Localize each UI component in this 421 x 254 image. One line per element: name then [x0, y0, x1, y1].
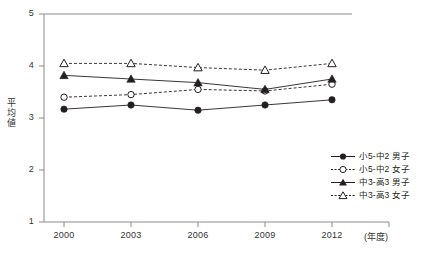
x-tick-label-2012: 2012 — [312, 230, 352, 240]
y-axis-title-char-2: 均 — [5, 108, 17, 118]
legend-label-3: 中3-高3 女子 — [359, 189, 410, 202]
data-point-3-4 — [328, 59, 336, 66]
plot-area — [0, 0, 421, 254]
series-3 — [60, 59, 336, 73]
data-point-0-2 — [195, 107, 201, 113]
series-0 — [61, 97, 335, 114]
y-axis-title-char-3: 値 — [5, 118, 17, 128]
chart-container: 5 4 3 2 1 平 均 値 2000 2003 2006 2009 2012… — [0, 0, 421, 254]
data-point-0-1 — [128, 102, 134, 108]
data-point-3-3 — [261, 66, 269, 73]
legend-label-1: 小5-中2 女子 — [359, 163, 410, 176]
x-tick-marks — [64, 222, 389, 227]
y-tick-label-2: 2 — [16, 164, 34, 174]
legend-marker-filled-triangle-icon — [330, 176, 356, 189]
data-point-3-1 — [127, 59, 135, 66]
data-point-2-0 — [60, 71, 68, 78]
legend-item-2: 中3-高3 男子 — [330, 176, 410, 189]
data-series-layer — [60, 59, 336, 113]
y-tick-label-5: 5 — [16, 8, 34, 18]
legend-marker-open-circle-icon — [330, 163, 356, 176]
data-point-1-2 — [195, 86, 201, 92]
data-point-1-0 — [61, 94, 67, 100]
x-tick-label-2003: 2003 — [111, 230, 151, 240]
data-point-3-0 — [60, 59, 68, 66]
data-point-0-0 — [61, 106, 67, 112]
legend-label-2: 中3-高3 男子 — [359, 176, 410, 189]
x-tick-label-2000: 2000 — [44, 230, 84, 240]
y-tick-label-1: 1 — [16, 216, 34, 226]
x-axis-unit-label: (年度) — [364, 230, 388, 243]
y-axis-title: 平 均 値 — [5, 98, 17, 128]
y-tick-marks — [39, 14, 44, 222]
y-tick-label-3: 3 — [16, 112, 34, 122]
legend-marker-filled-circle-icon — [330, 150, 356, 163]
legend-item-1: 小5-中2 女子 — [330, 163, 410, 176]
legend-item-0: 小5-中2 男子 — [330, 150, 410, 163]
data-point-0-3 — [262, 102, 268, 108]
x-tick-label-2006: 2006 — [178, 230, 218, 240]
data-point-2-4 — [328, 75, 336, 82]
chart-legend: 小5-中2 男子 小5-中2 女子 中3-高3 男子 中3-高3 女子 — [330, 150, 410, 202]
legend-label-0: 小5-中2 男子 — [359, 150, 410, 163]
x-tick-label-2009: 2009 — [245, 230, 285, 240]
y-axis-title-char-1: 平 — [5, 98, 17, 108]
data-point-1-1 — [128, 91, 134, 97]
y-tick-label-4: 4 — [16, 60, 34, 70]
legend-marker-open-triangle-icon — [330, 189, 356, 202]
data-point-0-4 — [329, 97, 335, 103]
legend-item-3: 中3-高3 女子 — [330, 189, 410, 202]
